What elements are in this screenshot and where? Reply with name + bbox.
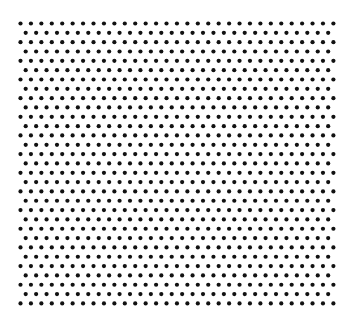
dot xyxy=(310,115,314,119)
dot xyxy=(321,245,325,249)
dot xyxy=(253,49,257,53)
dot xyxy=(232,255,236,259)
dot xyxy=(222,143,226,147)
dot xyxy=(18,152,22,156)
dot xyxy=(300,189,304,193)
dot xyxy=(305,49,309,53)
dot xyxy=(237,96,241,100)
dot xyxy=(76,49,80,53)
dot xyxy=(185,96,189,100)
dot xyxy=(248,77,252,81)
dot xyxy=(97,199,101,203)
dot xyxy=(295,87,299,91)
dot xyxy=(316,217,320,221)
dot xyxy=(112,96,116,100)
dot xyxy=(211,31,215,35)
dot xyxy=(185,208,189,212)
dot xyxy=(326,217,330,221)
dot xyxy=(316,161,320,165)
dot xyxy=(211,217,215,221)
dot xyxy=(18,133,22,137)
dot xyxy=(55,273,59,277)
dot xyxy=(290,152,294,156)
dot xyxy=(237,40,241,44)
dot xyxy=(164,283,168,287)
dot xyxy=(321,189,325,193)
dot xyxy=(248,208,252,212)
dot xyxy=(117,217,121,221)
dot xyxy=(175,133,179,137)
dot xyxy=(331,227,335,231)
dot xyxy=(144,264,148,268)
dot xyxy=(133,77,137,81)
dot xyxy=(154,21,158,25)
dot xyxy=(217,283,221,287)
dot xyxy=(60,59,64,63)
dot xyxy=(196,264,200,268)
dot xyxy=(76,124,80,128)
dot xyxy=(144,301,148,305)
dot xyxy=(149,161,153,165)
dot xyxy=(170,161,174,165)
dot xyxy=(227,40,231,44)
dot xyxy=(316,124,320,128)
dot xyxy=(91,133,95,137)
dot xyxy=(185,301,189,305)
dot xyxy=(248,21,252,25)
dot xyxy=(248,115,252,119)
dot xyxy=(185,115,189,119)
dot xyxy=(201,87,205,91)
dot xyxy=(55,180,59,184)
dot xyxy=(321,283,325,287)
dot xyxy=(91,115,95,119)
dot xyxy=(164,77,168,81)
dot xyxy=(102,171,106,175)
dot xyxy=(76,31,80,35)
dot xyxy=(331,96,335,100)
dot xyxy=(138,124,142,128)
dot xyxy=(159,180,163,184)
dot xyxy=(144,77,148,81)
dot xyxy=(274,105,278,109)
dot xyxy=(326,255,330,259)
dot xyxy=(60,264,64,268)
dot xyxy=(86,49,90,53)
dot xyxy=(91,301,95,305)
dot xyxy=(295,292,299,296)
dot xyxy=(91,96,95,100)
dot xyxy=(222,180,226,184)
dot xyxy=(196,283,200,287)
dot xyxy=(107,124,111,128)
dot xyxy=(316,255,320,259)
dot xyxy=(305,255,309,259)
dot xyxy=(201,180,205,184)
dot xyxy=(24,161,28,165)
dot xyxy=(253,161,257,165)
dot xyxy=(232,217,236,221)
dot xyxy=(164,59,168,63)
dot xyxy=(227,283,231,287)
dot xyxy=(112,115,116,119)
dot xyxy=(232,31,236,35)
dot xyxy=(112,245,116,249)
dot xyxy=(305,292,309,296)
dot xyxy=(102,245,106,249)
dot xyxy=(263,124,267,128)
dot xyxy=(175,40,179,44)
dot xyxy=(81,301,85,305)
dot xyxy=(55,105,59,109)
dot xyxy=(269,133,273,137)
dot xyxy=(34,143,38,147)
dot xyxy=(232,124,236,128)
dot xyxy=(154,59,158,63)
dot xyxy=(86,68,90,72)
dot xyxy=(34,49,38,53)
dot xyxy=(76,199,80,203)
dot xyxy=(258,171,262,175)
dot xyxy=(60,133,64,137)
dot xyxy=(217,40,221,44)
dot xyxy=(274,161,278,165)
dot xyxy=(196,77,200,81)
dot xyxy=(263,292,267,296)
dot xyxy=(232,105,236,109)
